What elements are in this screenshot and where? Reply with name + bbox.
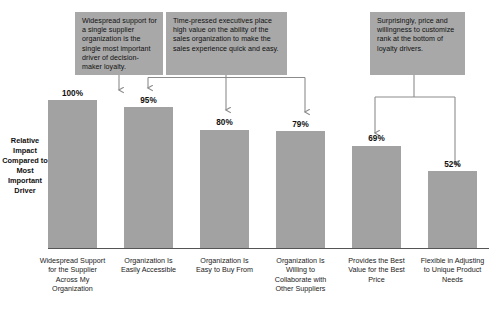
bar-value-label: 52% bbox=[428, 160, 477, 169]
category-label: Widespread Support for the Supplier Acro… bbox=[40, 256, 106, 294]
bar[interactable] bbox=[276, 131, 325, 248]
category-label: Organization Is Easily Accessible bbox=[116, 256, 182, 275]
category-label: Organization Is Easy to Buy From bbox=[192, 256, 258, 275]
x-axis-baseline bbox=[48, 248, 489, 249]
bar-value-label: 79% bbox=[276, 120, 325, 129]
bar[interactable] bbox=[352, 146, 401, 248]
bar-value-label: 95% bbox=[124, 96, 173, 105]
bar-value-label: 80% bbox=[200, 118, 249, 127]
category-label: Organization Is Willing to Collaborate w… bbox=[268, 256, 334, 294]
bar-value-label: 69% bbox=[352, 134, 401, 143]
bar[interactable] bbox=[428, 171, 477, 248]
bar-value-label: 100% bbox=[48, 89, 97, 98]
category-label: Provides the Best Value for the Best Pri… bbox=[344, 256, 410, 284]
plot-area: 100%95%80%79%69%52% bbox=[48, 88, 489, 248]
bar[interactable] bbox=[200, 130, 249, 248]
chart-container: Widespread support for a single supplier… bbox=[0, 0, 489, 331]
bar[interactable] bbox=[124, 107, 173, 248]
category-label: Flexible in Adjusting to Unique Product … bbox=[420, 256, 486, 284]
y-axis-title: Relative Impact Compared to Most Importa… bbox=[2, 136, 48, 196]
bar[interactable] bbox=[48, 100, 97, 248]
